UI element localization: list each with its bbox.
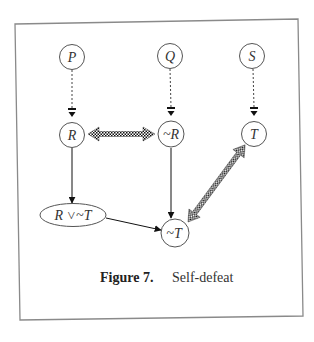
defeat-arrow-r-not-r [88, 127, 155, 141]
node-t-label: T [250, 127, 259, 142]
node-q: Q [158, 44, 183, 69]
caption-title: Self-defeat [172, 270, 234, 285]
node-p-label: P [67, 50, 77, 65]
node-s-label: S [249, 49, 256, 64]
node-r-label: R [67, 128, 77, 143]
node-t: T [242, 122, 267, 147]
node-not-r-label: ~R [163, 127, 180, 142]
edge-q-to-not-r [167, 69, 175, 116]
figure-container: P Q S R ~R T R ˅~T ~T Figure 7. Self-def… [0, 0, 314, 342]
diagram-canvas: P Q S R ~R T R ˅~T ~T Figure 7. Self-def… [0, 0, 314, 342]
node-not-t-label: ~T [166, 226, 183, 241]
caption-figure-number: Figure 7. [100, 270, 153, 285]
node-not-r: ~R [158, 121, 184, 147]
edge-s-to-t [250, 69, 258, 116]
defeat-arrow-t-not-t [182, 141, 250, 226]
node-not-t: ~T [161, 219, 189, 247]
node-p: P [60, 45, 85, 70]
edge-p-to-r [68, 70, 76, 117]
node-s: S [240, 44, 265, 69]
node-r: R [60, 123, 85, 148]
node-r-or-not-t: R ˅~T [40, 204, 106, 227]
node-r-or-not-t-label: R ˅~T [54, 208, 93, 223]
edge-disjunction-to-not-t [106, 218, 161, 230]
node-q-label: Q [165, 49, 175, 64]
